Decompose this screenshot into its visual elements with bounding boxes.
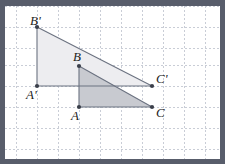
image-frame: B' A' C' B A C — [0, 0, 225, 164]
geometry-canvas: B' A' C' B A C — [5, 6, 220, 159]
label-layer: B' A' C' B A C — [5, 6, 220, 159]
label-c: C — [156, 106, 165, 119]
label-a: A — [71, 109, 79, 122]
label-c-prime: C' — [156, 72, 167, 85]
label-b-prime: B' — [30, 14, 41, 27]
label-a-prime: A' — [26, 88, 37, 101]
label-b: B — [73, 50, 81, 63]
